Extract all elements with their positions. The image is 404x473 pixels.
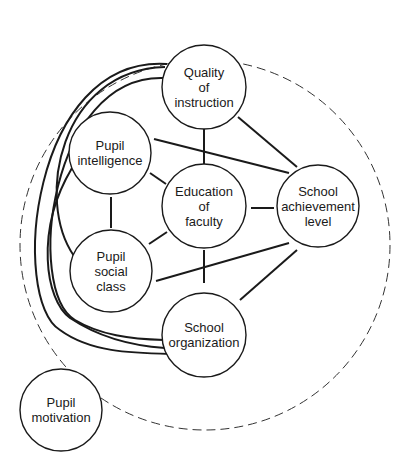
node-label: Pupil — [97, 249, 126, 264]
node-intelligence: Pupilintelligence — [69, 112, 151, 194]
node-label: instruction — [174, 95, 233, 110]
node-achievement: Schoolachievementlevel — [277, 165, 359, 247]
node-label: social — [94, 264, 127, 279]
node-label: School — [298, 184, 338, 199]
node-label: achievement — [281, 199, 355, 214]
edge-intelligence-education — [150, 173, 166, 184]
node-label: Pupil — [47, 395, 76, 410]
node-label: Quality — [184, 65, 225, 80]
node-label: School — [184, 320, 224, 335]
node-label: motivation — [31, 410, 90, 425]
node-label: of — [199, 199, 210, 214]
node-organization: Schoolorganization — [162, 293, 246, 377]
causal-diagram: QualityofinstructionPupilintelligenceEdu… — [0, 0, 404, 473]
node-education: Educationoffaculty — [162, 164, 246, 248]
node-quality: Qualityofinstruction — [162, 45, 246, 129]
node-label: organization — [169, 335, 240, 350]
node-motivation: Pupilmotivation — [20, 369, 102, 451]
nodes: QualityofinstructionPupilintelligenceEdu… — [20, 45, 359, 451]
edge-organization-achievement — [240, 250, 297, 300]
edge-quality-achievement — [238, 117, 297, 167]
node-label: of — [199, 80, 210, 95]
node-label: class — [96, 279, 126, 294]
node-label: faculty — [185, 214, 223, 229]
node-label: Education — [175, 184, 233, 199]
node-label: level — [305, 214, 332, 229]
node-social: Pupilsocialclass — [70, 230, 152, 312]
node-label: Pupil — [96, 138, 125, 153]
edge-education-social — [149, 232, 167, 244]
node-label: intelligence — [77, 153, 142, 168]
